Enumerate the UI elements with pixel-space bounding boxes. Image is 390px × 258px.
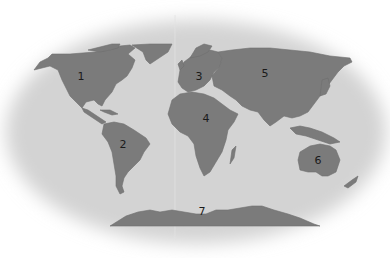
map-graphic	[0, 0, 390, 258]
label-australia: 6	[315, 154, 322, 167]
label-south-america: 2	[120, 138, 127, 151]
label-europe: 3	[196, 70, 203, 83]
label-asia: 5	[262, 67, 269, 80]
label-africa: 4	[203, 112, 210, 125]
label-antarctica: 7	[199, 205, 206, 218]
label-north-america: 1	[78, 70, 85, 83]
world-map: 1 2 3 4 5 6 7	[0, 0, 390, 258]
